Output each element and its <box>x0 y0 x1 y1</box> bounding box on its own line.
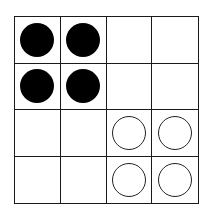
board-cell <box>152 17 198 64</box>
board-cell <box>107 17 153 64</box>
white-disc-icon <box>158 163 192 197</box>
board-cell <box>61 17 107 64</box>
board-cell <box>15 157 61 204</box>
board-cell <box>152 110 198 157</box>
board-cell <box>15 64 61 111</box>
game-board-grid <box>14 16 199 204</box>
black-disc-icon <box>20 23 54 57</box>
board-cell <box>152 64 198 111</box>
board-cell <box>107 110 153 157</box>
white-disc-icon <box>112 116 146 150</box>
board-cell <box>61 64 107 111</box>
white-disc-icon <box>112 163 146 197</box>
black-disc-icon <box>66 23 100 57</box>
black-disc-icon <box>20 69 54 103</box>
white-disc-icon <box>158 116 192 150</box>
board-cell <box>107 64 153 111</box>
board-cell <box>15 17 61 64</box>
board-cell <box>107 157 153 204</box>
black-disc-icon <box>66 69 100 103</box>
board-cell <box>152 157 198 204</box>
board-cell <box>61 110 107 157</box>
board-cell <box>15 110 61 157</box>
board-cell <box>61 157 107 204</box>
